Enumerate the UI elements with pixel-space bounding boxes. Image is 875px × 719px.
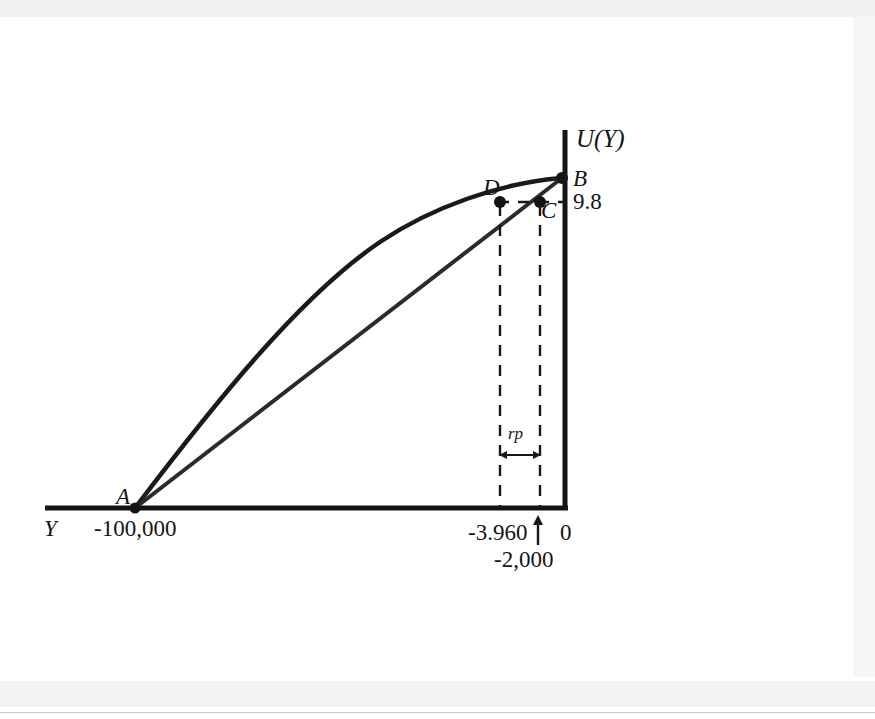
point-label-D: D [483,176,500,199]
risk-premium-label: rp [508,425,523,442]
risk-premium-arrow [499,451,541,459]
point-label-A: A [116,485,130,508]
y-tick-label-9-8: 9.8 [573,190,602,213]
x-tick-label-origin: 0 [560,521,572,544]
x-tick-label-minus-100000: -100,000 [94,517,176,540]
x-axis-label: Y [44,517,57,540]
point-marker-A [130,503,141,514]
utility-function-diagram [0,0,875,719]
y-axis-label: U(Y) [576,126,625,151]
x-tick-pointer-arrow [533,515,543,545]
scanned-page: U(Y) B 9.8 D C A Y -100,000 -3.960 0 -2,… [0,0,875,719]
chord-line-AB [135,178,562,508]
point-marker-B [556,172,568,184]
x-tick-label-minus-2000: -2,000 [494,548,553,571]
x-tick-label-minus-3-960: -3.960 [468,521,527,544]
point-label-C: C [541,199,556,222]
point-label-B: B [573,167,587,190]
